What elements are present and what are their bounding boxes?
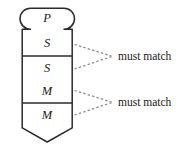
diagram-canvas: P S S M M must match must match <box>0 0 184 149</box>
segmented-shape-diagram: P S S M M must match must match <box>0 0 184 149</box>
cell-letter-m-lower: M <box>41 108 53 122</box>
cell-letter-s-lower: S <box>44 61 51 75</box>
annotation-label-1: must match <box>118 50 172 62</box>
leader-bracket-1-upper <box>75 45 112 57</box>
leader-bracket-1-lower <box>75 57 112 69</box>
cell-letter-m-upper: M <box>41 84 53 98</box>
cell-letter-s-upper: S <box>44 36 51 50</box>
cell-letter-p: P <box>42 11 51 25</box>
leader-bracket-2-upper <box>75 91 112 103</box>
leader-bracket-2-lower <box>75 103 112 115</box>
annotation-label-2: must match <box>118 96 172 108</box>
